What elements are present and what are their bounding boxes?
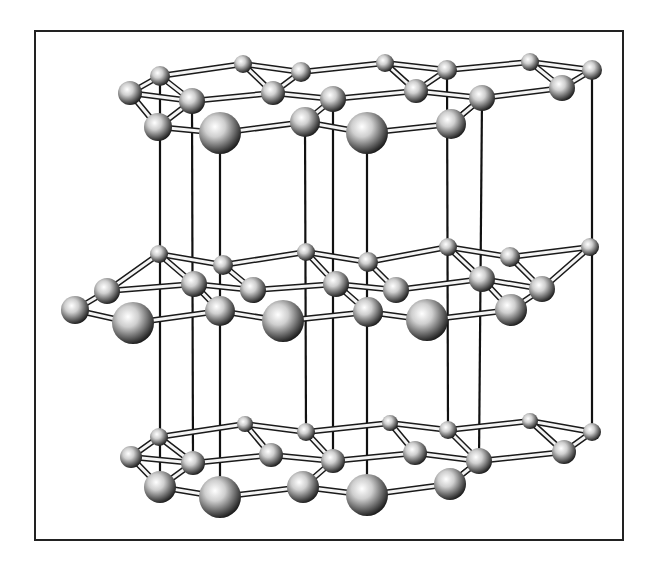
atom (237, 416, 253, 432)
atom (404, 79, 428, 103)
atom (144, 113, 172, 141)
atom (205, 296, 235, 326)
atom (181, 271, 207, 297)
bond-highlight (306, 423, 390, 432)
atom (582, 60, 602, 80)
atom (112, 302, 154, 344)
atom (118, 81, 142, 105)
atom (120, 446, 142, 468)
atom (439, 238, 457, 256)
atom (436, 109, 466, 139)
atom (583, 423, 601, 441)
atom (466, 448, 492, 474)
atom (94, 278, 120, 304)
atom (259, 443, 283, 467)
atom (522, 413, 538, 429)
atom (290, 107, 320, 137)
atom (383, 277, 409, 303)
atom (323, 271, 349, 297)
atom (346, 474, 388, 516)
atom (437, 60, 457, 80)
middle-layer (61, 238, 599, 344)
atom (199, 112, 241, 154)
crystal-lattice-diagram (0, 0, 656, 567)
atom (297, 423, 315, 441)
bond-highlight (368, 247, 448, 262)
atom (321, 449, 345, 473)
atom (376, 54, 394, 72)
atom (500, 247, 520, 267)
atom (150, 66, 170, 86)
atom (581, 238, 599, 256)
atom (521, 53, 539, 71)
atom (529, 276, 555, 302)
atom (144, 471, 176, 503)
atom (549, 75, 575, 101)
atom (434, 468, 466, 500)
atom (240, 277, 266, 303)
atom (469, 266, 495, 292)
bond-highlight (159, 424, 245, 437)
atom (179, 88, 205, 114)
atom (262, 300, 304, 342)
atom (234, 55, 252, 73)
atom (320, 86, 346, 112)
atom (297, 243, 315, 261)
atomic-layers (61, 53, 602, 518)
atom (469, 85, 495, 111)
atom (403, 441, 427, 465)
atom (552, 440, 576, 464)
atom (150, 428, 168, 446)
atom (61, 296, 89, 324)
vertical-bond (305, 122, 306, 432)
bond-highlight (160, 64, 243, 76)
atom (495, 294, 527, 326)
atom (181, 451, 205, 475)
atom (150, 245, 168, 263)
atom (213, 255, 233, 275)
atom (353, 297, 383, 327)
bond-highlight (223, 252, 306, 265)
atom (358, 252, 378, 272)
bond-highlight (448, 421, 530, 430)
atom (261, 81, 285, 105)
atom (287, 471, 319, 503)
top-layer (118, 53, 602, 154)
atom (439, 421, 457, 439)
bond-highlight (396, 279, 482, 290)
bond-highlight (301, 63, 385, 72)
atom (346, 112, 388, 154)
atom (406, 299, 448, 341)
atom (199, 476, 241, 518)
atom (382, 415, 398, 431)
atom (291, 62, 311, 82)
